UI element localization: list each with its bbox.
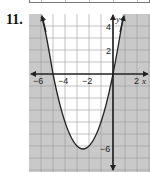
x-tick-label: 2 bbox=[134, 76, 139, 86]
x-tick-label: −4 bbox=[58, 76, 68, 86]
x-tick-label: −6 bbox=[33, 76, 43, 86]
y-tick-label: 4 bbox=[106, 22, 111, 32]
y-axis-label: y bbox=[115, 14, 120, 24]
x-axis-label: x bbox=[141, 76, 146, 86]
y-tick-label: −6 bbox=[100, 144, 110, 154]
y-tick-label: 2 bbox=[106, 46, 111, 56]
x-tick-label: −2 bbox=[82, 76, 92, 86]
inequality-graph: −6 −4 −2 2 x 4 2 −6 y bbox=[0, 0, 150, 172]
